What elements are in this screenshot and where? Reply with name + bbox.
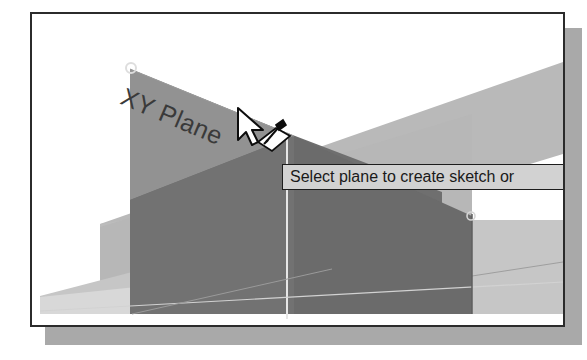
tooltip-text: Select plane to create sketch or <box>290 168 514 186</box>
cad-3d-viewport-window[interactable]: XY Plane Select plane to creat <box>30 12 565 327</box>
status-tooltip: Select plane to create sketch or <box>282 164 563 190</box>
3d-viewport[interactable]: XY Plane Select plane to creat <box>32 14 563 325</box>
screenshot-canvas: XY Plane Select plane to creat <box>0 0 587 360</box>
